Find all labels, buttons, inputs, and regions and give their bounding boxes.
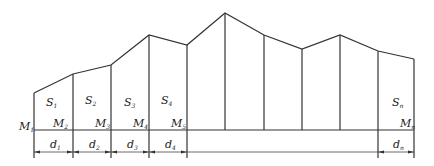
label-dn: dn [393,138,404,151]
label-d4: d4 [165,138,176,151]
label-m1: M1 [18,120,34,133]
label-d2: d2 [89,138,100,151]
label-s4: S4 [161,94,173,107]
label-s3: S3 [124,96,136,109]
label-m3: M3 [94,117,110,130]
label-s2: S2 [85,94,97,107]
label-m5: M5 [170,117,186,130]
label-s1: S1 [46,96,57,109]
label-mn: Mn [399,117,415,130]
label-sn: Sn [392,96,404,109]
dimension-labels: d1 d2 d3 d4 dn [50,138,404,151]
area-segment-diagram: S1 S2 S3 S4 Sn M1 M2 M3 M4 M5 Mn d1 d2 d… [0,0,434,166]
label-m2: M2 [52,117,68,130]
section-lines [34,13,414,158]
label-d3: d3 [127,138,138,151]
point-labels: M1 M2 M3 M4 M5 Mn [18,117,415,133]
profile-line [34,13,414,93]
label-m4: M4 [132,117,148,130]
label-d1: d1 [50,138,61,151]
